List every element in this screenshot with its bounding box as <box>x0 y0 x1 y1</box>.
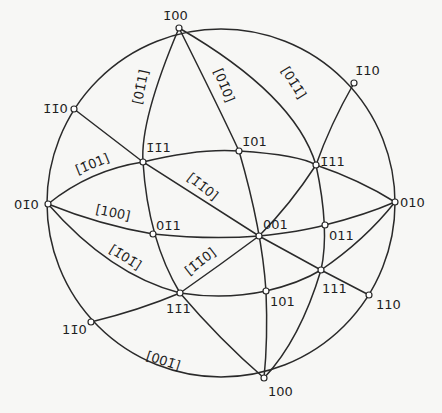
zone-axis-label: [1̄1̄0] <box>184 170 221 203</box>
zone-axis-label: [1̄01] <box>73 150 111 177</box>
pole-label-111: 111 <box>322 281 347 296</box>
pole-label-011: 011 <box>329 228 354 243</box>
pole-m110 <box>351 80 357 86</box>
pole-label-010: 010 <box>400 195 425 210</box>
pole-m100 <box>176 25 182 31</box>
pole-label-m111: 1̄11 <box>320 154 345 169</box>
pole-label-1m10: 11̄0 <box>62 322 87 337</box>
pole-111 <box>318 267 324 273</box>
pole-labels: 1̄001̄101̄1̄01̄1̄11̄011̄1101̄001001̄1001… <box>14 8 425 399</box>
zone-axis-label: [100] <box>94 202 131 224</box>
pole-110 <box>366 292 372 298</box>
zone-axis-label: [001̄] <box>144 348 182 373</box>
pole-1m10 <box>88 319 94 325</box>
pole-label-1m11: 11̄1 <box>166 301 191 316</box>
pole-101 <box>263 288 269 294</box>
pole-011 <box>322 222 328 228</box>
pole-label-m101: 1̄01 <box>242 134 267 149</box>
pole-label-mm11: 1̄1̄1 <box>146 140 171 155</box>
great-circle-zone-01m1-cont <box>180 293 264 378</box>
zone-axis-label: [01̄1] <box>130 68 152 105</box>
pole-label-0m10: 01̄0 <box>14 197 39 212</box>
pole-100 <box>261 375 267 381</box>
pole-label-101: 101 <box>270 294 295 309</box>
great-circle-zone-m110-1m10 <box>91 83 354 322</box>
stereographic-projection: 1̄001̄101̄1̄01̄1̄11̄011̄1101̄001001̄1001… <box>0 0 442 413</box>
pole-mm10 <box>71 106 77 112</box>
pole-label-001: 001 <box>263 217 288 232</box>
zone-axis-label: [1̄1̄0] <box>182 245 219 278</box>
pole-010 <box>392 199 398 205</box>
pole-label-0m11: 01̄1 <box>156 218 181 233</box>
pole-0m10 <box>45 201 51 207</box>
pole-label-110: 110 <box>376 297 401 312</box>
pole-label-m110: 1̄10 <box>355 63 380 78</box>
pole-label-mm10: 1̄1̄0 <box>43 101 68 116</box>
pole-label-100: 100 <box>268 384 293 399</box>
pole-1m11 <box>177 290 183 296</box>
pole-m111 <box>313 162 319 168</box>
pole-mm11 <box>140 159 146 165</box>
pole-label-m100: 1̄00 <box>163 8 188 23</box>
zone-axis-label: [01̄1̄] <box>278 64 309 102</box>
pole-001 <box>256 233 262 239</box>
zone-axis-label: [1̄01̄] <box>107 242 145 273</box>
